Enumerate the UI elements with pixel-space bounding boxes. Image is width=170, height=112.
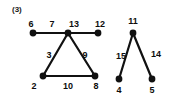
vertex-label: 4: [116, 86, 121, 95]
vertex-label: 12: [95, 20, 105, 29]
edge-weight-label: 7: [49, 20, 54, 29]
graph-vertex: [130, 30, 137, 37]
vertex-label: 2: [31, 82, 36, 91]
graph-edge: [133, 33, 152, 79]
graph-vertex: [65, 30, 72, 37]
graph-vertex: [95, 30, 102, 37]
edge-weight-label: 9: [82, 51, 87, 60]
edge-weight-label: 14: [151, 50, 161, 59]
graph-vertex: [92, 73, 99, 80]
edge-weight-label: 15: [116, 52, 126, 61]
graph-vertex: [116, 76, 123, 83]
graph-vertex: [30, 30, 37, 37]
vertex-label: 13: [69, 20, 79, 29]
graph-vertex: [40, 73, 47, 80]
graph-vertex: [149, 76, 156, 83]
edge-weight-label: 3: [46, 51, 51, 60]
vertex-label: 8: [93, 82, 98, 91]
graph-figure: (3) 73910613122815141145: [0, 0, 170, 112]
vertex-label: 11: [128, 17, 138, 26]
vertex-label: 5: [149, 86, 154, 95]
edge-weight-label: 10: [63, 82, 73, 91]
vertex-label: 6: [28, 20, 33, 29]
